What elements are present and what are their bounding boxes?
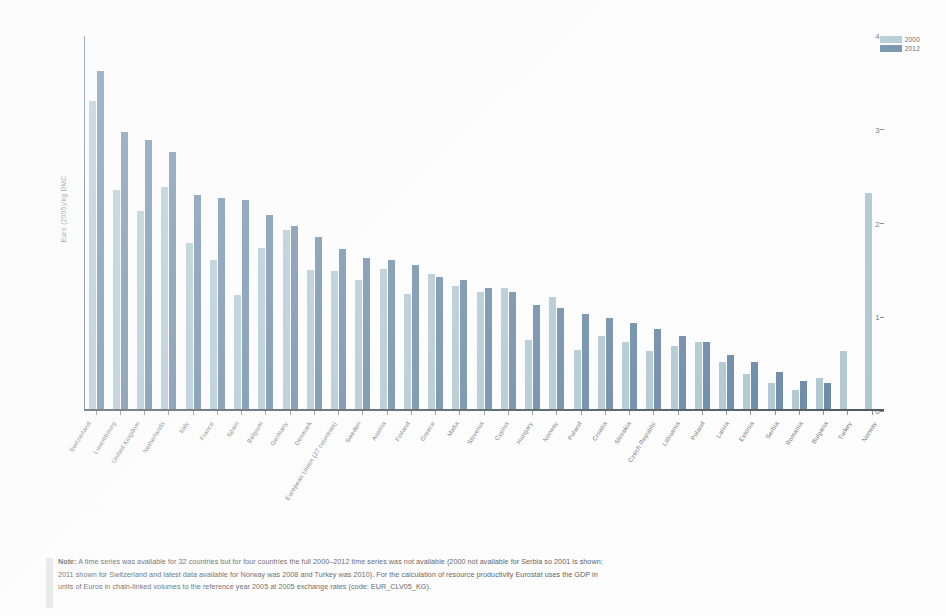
x-tick (327, 411, 351, 415)
bar-2012 (727, 355, 734, 409)
bar-2000 (137, 211, 144, 409)
bar-2012 (606, 318, 613, 409)
bar-2012 (97, 71, 104, 409)
x-tick (351, 411, 375, 415)
x-tick (690, 411, 714, 415)
bar-2012 (509, 292, 516, 409)
bar-2012 (121, 132, 128, 409)
note-line-2: 2011 shown for Switzerland and latest da… (58, 569, 888, 582)
bar-group (569, 36, 593, 409)
bar-group (254, 36, 278, 409)
bar-2000 (307, 270, 314, 409)
bar-group (690, 36, 714, 409)
bar-2000 (331, 271, 338, 409)
bar-2000 (768, 383, 775, 409)
bar-group (739, 36, 763, 409)
x-tick (230, 411, 254, 415)
x-tick (472, 411, 496, 415)
bar-2012 (582, 314, 589, 409)
x-tick (133, 411, 157, 415)
bar-group (399, 36, 423, 409)
bar-group (593, 36, 617, 409)
x-tick (569, 411, 593, 415)
bar-group (133, 36, 157, 409)
bar-2000 (428, 274, 435, 409)
bar-2012 (800, 381, 807, 409)
x-tick (545, 411, 569, 415)
x-tick (715, 411, 739, 415)
bar-2000 (525, 340, 532, 409)
chart-container: Euro (2005)/kg DMC 01234 (64, 36, 884, 411)
x-tick (496, 411, 520, 415)
x-tick (739, 411, 763, 415)
x-tick (157, 411, 181, 415)
bar-2012 (557, 308, 564, 409)
note-text-1: A time series was available for 32 count… (78, 557, 602, 566)
x-tick (787, 411, 811, 415)
x-tick (618, 411, 642, 415)
bar-2012 (218, 198, 225, 409)
bar-2012 (630, 323, 637, 409)
x-tick (278, 411, 302, 415)
x-tick (448, 411, 472, 415)
x-tick (860, 411, 884, 415)
bar-2000 (671, 346, 678, 409)
bar-2000 (186, 243, 193, 409)
bar-group (278, 36, 302, 409)
bar-2000 (161, 187, 168, 409)
bar-group (351, 36, 375, 409)
x-tick (763, 411, 787, 415)
bar-2000 (210, 260, 217, 409)
bar-group (84, 36, 108, 409)
bar-2012 (485, 288, 492, 409)
x-tick (521, 411, 545, 415)
bar-2000 (380, 269, 387, 409)
bar-group (496, 36, 520, 409)
bar-2000 (258, 248, 265, 409)
bar-group (302, 36, 326, 409)
bar-2000 (743, 374, 750, 409)
bar-2000 (477, 292, 484, 409)
bar-2000 (549, 297, 556, 409)
x-tick (205, 411, 229, 415)
bar-2000 (622, 342, 629, 409)
x-tick (666, 411, 690, 415)
x-tick (399, 411, 423, 415)
x-tick (812, 411, 836, 415)
legend-label: 2012 (905, 45, 920, 52)
note-label: Note: (58, 557, 77, 566)
bar-2000 (404, 294, 411, 409)
bar-group (642, 36, 666, 409)
bar-2012 (824, 383, 831, 409)
bar-2012 (315, 237, 322, 409)
bar-2012 (194, 195, 201, 409)
bar-2000 (865, 193, 872, 409)
bar-group (448, 36, 472, 409)
bar-2000 (816, 378, 823, 409)
bar-group (472, 36, 496, 409)
bar-2012 (291, 226, 298, 409)
bar-group (108, 36, 132, 409)
bar-2012 (242, 200, 249, 409)
bar-group (787, 36, 811, 409)
note-line-3: units of Euros in chain-linked volumes t… (58, 581, 888, 594)
x-tick (593, 411, 617, 415)
bar-group (327, 36, 351, 409)
legend-swatch-icon (880, 36, 902, 43)
bar-2000 (598, 336, 605, 409)
bar-2012 (145, 140, 152, 409)
legend-swatch-icon (880, 45, 902, 52)
bar-group (618, 36, 642, 409)
bar-2000 (501, 288, 508, 409)
bar-2012 (169, 152, 176, 409)
bar-group (545, 36, 569, 409)
chart-legend: 2000 2012 (880, 36, 920, 52)
x-tick-marks (84, 411, 884, 415)
bar-2012 (266, 215, 273, 409)
x-tick (302, 411, 326, 415)
bar-2000 (646, 351, 653, 409)
bar-group (836, 36, 860, 409)
legend-item-2000: 2000 (880, 36, 920, 43)
bar-2000 (695, 342, 702, 409)
bar-group (521, 36, 545, 409)
